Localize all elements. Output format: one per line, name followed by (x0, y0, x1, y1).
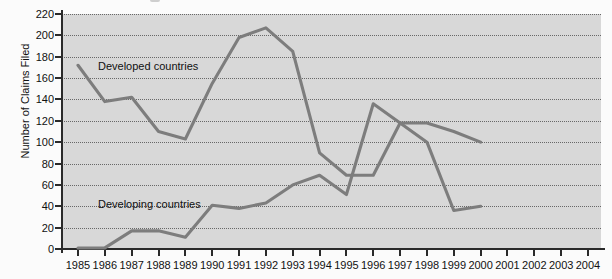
series-label-developed-countries: Developed countries (98, 60, 198, 72)
series-label-developing-countries: Developing countries (98, 198, 201, 210)
series-line-developed-countries (78, 28, 481, 175)
series-line-developing-countries (78, 104, 481, 248)
chart-figure: Number of Claims Filed 02040608010012014… (0, 0, 612, 279)
series-lines (0, 0, 612, 279)
